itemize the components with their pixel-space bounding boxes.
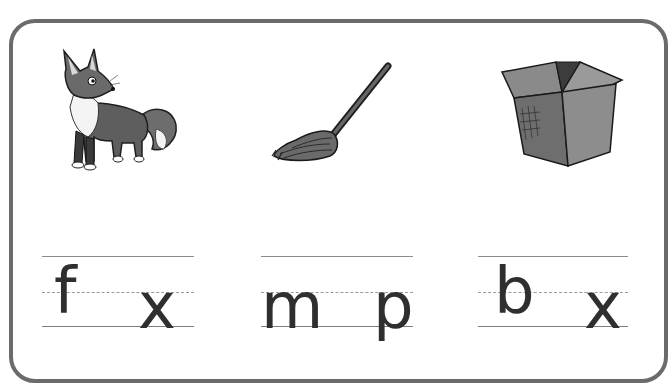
- last-letter: p: [373, 274, 414, 338]
- last-letter: x: [138, 274, 176, 338]
- box-icon: [498, 58, 628, 173]
- word-row-mop: m p: [261, 240, 413, 350]
- word-row-fox: f x: [42, 240, 194, 350]
- box-picture: [498, 58, 628, 173]
- mop-icon: [270, 58, 400, 168]
- last-letter: x: [584, 274, 622, 338]
- mop-picture: [270, 58, 400, 168]
- first-letter: b: [494, 259, 535, 323]
- fox-icon: [52, 45, 182, 175]
- guide-line-top: [261, 256, 413, 257]
- fox-picture: [52, 45, 182, 175]
- first-letter: f: [54, 259, 77, 323]
- word-row-box: b x: [478, 240, 628, 350]
- first-letter: m: [261, 274, 323, 338]
